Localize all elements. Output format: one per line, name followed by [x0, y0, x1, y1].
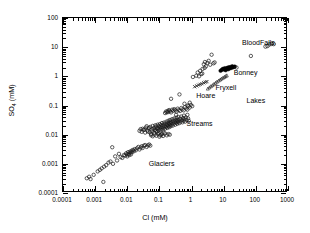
x-tick-minor-top — [219, 18, 220, 21]
x-tick-minor — [88, 189, 89, 192]
y-tick-minor-right — [284, 150, 287, 151]
x-tick-minor — [78, 189, 79, 192]
x-tick-minor — [137, 189, 138, 192]
y-tick-minor — [63, 143, 66, 144]
x-tick-minor — [175, 189, 176, 192]
data-point — [115, 159, 118, 162]
x-tick-minor-top — [122, 18, 123, 21]
y-tick-minor — [63, 114, 66, 115]
x-tick-minor-top — [175, 18, 176, 21]
y-tick-minor-right — [284, 112, 287, 113]
y-tick-minor-right — [284, 56, 287, 57]
data-point — [169, 97, 172, 100]
y-tick-minor — [63, 59, 66, 60]
x-tick-minor-top — [88, 18, 89, 21]
x-tick-minor-top — [214, 18, 215, 21]
y-tick-major — [63, 193, 68, 194]
x-tick-minor-top — [110, 18, 111, 21]
y-axis-title: SO4 (mM) — [7, 56, 16, 146]
data-point — [191, 75, 194, 78]
y-tick-minor-right — [284, 143, 287, 144]
x-tick-minor — [275, 189, 276, 192]
x-tick-major — [192, 186, 193, 191]
y-tick-minor — [63, 175, 66, 176]
y-tick-major-right — [281, 47, 286, 48]
y-tick-minor-right — [284, 184, 287, 185]
y-tick-minor — [63, 117, 66, 118]
x-tick-label: 100 — [250, 196, 261, 203]
y-tick-minor-right — [284, 167, 287, 168]
y-tick-minor-right — [284, 24, 287, 25]
y-tick-minor-right — [284, 50, 287, 51]
y-tick-minor — [63, 81, 66, 82]
y-tick-minor — [63, 155, 66, 156]
x-tick-minor — [201, 189, 202, 192]
x-tick-minor — [246, 189, 247, 192]
y-tick-minor-right — [284, 141, 287, 142]
x-tick-minor — [217, 189, 218, 192]
y-tick-major — [63, 18, 68, 19]
y-tick-minor — [63, 108, 66, 109]
x-tick-minor-top — [266, 18, 267, 21]
y-tick-major-right — [281, 76, 286, 77]
x-tick-minor-top — [187, 18, 188, 21]
y-tick-minor — [63, 83, 66, 84]
y-tick-minor — [63, 33, 66, 34]
x-tick-minor-top — [278, 18, 279, 21]
x-tick-label: 1 — [189, 196, 193, 203]
data-point — [249, 54, 252, 57]
data-point — [111, 146, 114, 149]
y-tick-minor-right — [284, 83, 287, 84]
y-tick-minor-right — [284, 49, 287, 50]
x-tick-minor — [233, 189, 234, 192]
x-tick-major-top — [224, 18, 225, 23]
y-tick-minor-right — [284, 110, 287, 111]
data-point — [201, 67, 204, 70]
x-tick-minor — [90, 189, 91, 192]
x-tick-major-top — [256, 18, 257, 23]
y-tick-minor — [63, 68, 66, 69]
y-tick-minor-right — [284, 121, 287, 122]
x-tick-minor — [243, 189, 244, 192]
y-tick-major-right — [281, 164, 286, 165]
y-tick-minor-right — [284, 52, 287, 53]
x-tick-minor — [251, 189, 252, 192]
series-streams — [138, 93, 194, 139]
data-point — [102, 180, 105, 183]
x-tick-minor — [110, 189, 111, 192]
y-tick-major — [63, 106, 68, 107]
x-tick-minor — [82, 189, 83, 192]
y-tick-minor — [63, 170, 66, 171]
y-tick-minor — [63, 19, 66, 20]
x-tick-minor — [266, 189, 267, 192]
y-tick-minor-right — [284, 30, 287, 31]
x-tick-label: 0.0001 — [52, 196, 72, 203]
y-tick-minor-right — [284, 179, 287, 180]
y-tick-minor-right — [284, 33, 287, 34]
data-point — [183, 102, 186, 105]
y-tick-minor — [63, 52, 66, 53]
x-tick-minor-top — [182, 18, 183, 21]
y-tick-label: 0.01 — [22, 130, 58, 137]
y-tick-minor-right — [284, 170, 287, 171]
x-tick-major — [159, 186, 160, 191]
figure-scatter-so4-vs-cl: Cl (mM) SO4 (mM) 0.00010.0010.010.111010… — [0, 0, 310, 233]
y-tick-minor — [63, 110, 66, 111]
data-point — [210, 53, 213, 56]
y-tick-minor — [63, 54, 66, 55]
x-tick-major — [224, 186, 225, 191]
x-tick-minor-top — [82, 18, 83, 21]
x-tick-major-top — [127, 18, 128, 23]
y-tick-minor-right — [284, 85, 287, 86]
x-tick-minor-top — [275, 18, 276, 21]
y-tick-minor — [63, 79, 66, 80]
x-tick-minor-top — [233, 18, 234, 21]
annotation-bonney: Bonney — [234, 69, 258, 77]
x-tick-minor — [187, 189, 188, 192]
x-tick-minor — [239, 189, 240, 192]
y-tick-label: 0.1 — [22, 101, 58, 108]
y-tick-minor-right — [284, 27, 287, 28]
data-point — [111, 162, 114, 165]
x-tick-minor-top — [239, 18, 240, 21]
x-tick-minor-top — [169, 18, 170, 21]
